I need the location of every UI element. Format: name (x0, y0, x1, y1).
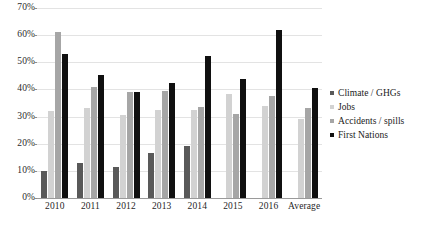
bar-group (215, 8, 251, 198)
x-axis-tick-label: 2015 (215, 201, 251, 212)
y-axis-tick-label: 30% (3, 112, 35, 122)
bar (77, 163, 83, 198)
bar (305, 108, 311, 198)
bar (134, 92, 140, 198)
x-axis-tick-label: 2010 (37, 201, 73, 212)
y-axis: 0%10%20%30%40%50%60%70% (0, 0, 35, 242)
bar (120, 115, 126, 198)
bar (262, 106, 268, 198)
bar (312, 88, 318, 198)
bar (205, 56, 211, 199)
y-axis-tick-label: 50% (3, 57, 35, 67)
bar-group (180, 8, 216, 198)
bar (162, 91, 168, 198)
legend-swatch-icon (330, 119, 334, 123)
legend-item[interactable]: Accidents / spills (330, 114, 420, 128)
bar (62, 54, 68, 198)
x-axis-tick-label: 2014 (180, 201, 216, 212)
x-axis-tick-label: 2011 (73, 201, 109, 212)
x-axis-tick-label: 2013 (144, 201, 180, 212)
bar (240, 79, 246, 198)
bar (91, 87, 97, 198)
bar (98, 75, 104, 199)
x-axis-tick-label: 2012 (108, 201, 144, 212)
legend-item-label: Jobs (338, 102, 355, 112)
bar-group (37, 8, 73, 198)
x-axis-tick-label: 2016 (251, 201, 287, 212)
bar (298, 119, 304, 198)
legend-swatch-icon (330, 133, 334, 137)
bar (269, 96, 275, 198)
bar (169, 83, 175, 198)
y-axis-tick-label: 10% (3, 166, 35, 176)
legend-item[interactable]: Climate / GHGs (330, 86, 420, 100)
bar (226, 94, 232, 199)
y-axis-tick-label: 40% (3, 84, 35, 94)
bar (191, 110, 197, 198)
legend-item-label: First Nations (338, 130, 388, 140)
bar (113, 167, 119, 198)
y-axis-tick-label: 20% (3, 139, 35, 149)
legend-item-label: Accidents / spills (338, 116, 404, 126)
chart-legend: Climate / GHGsJobsAccidents / spillsFirs… (330, 86, 420, 142)
y-axis-tick-label: 70% (3, 3, 35, 13)
bar (184, 146, 190, 198)
bar (55, 32, 61, 198)
bar (48, 111, 54, 198)
bar (233, 114, 239, 198)
legend-swatch-icon (330, 105, 334, 109)
legend-item-label: Climate / GHGs (338, 88, 400, 98)
bar (198, 107, 204, 198)
bar-group (286, 8, 322, 198)
bar (155, 110, 161, 198)
bar (127, 92, 133, 198)
bar-group (251, 8, 287, 198)
bar (41, 171, 47, 198)
bar (84, 108, 90, 198)
x-axis-tick-label: Average (286, 201, 322, 212)
y-axis-tick-label: 0% (3, 193, 35, 203)
legend-item[interactable]: Jobs (330, 100, 420, 114)
bar-group (144, 8, 180, 198)
bar-chart: 0%10%20%30%40%50%60%70% 2010201120122013… (0, 0, 421, 242)
legend-swatch-icon (330, 91, 334, 95)
y-axis-tick-label: 60% (3, 30, 35, 40)
bar-group (108, 8, 144, 198)
bar (148, 153, 154, 198)
legend-item[interactable]: First Nations (330, 128, 420, 142)
bar (276, 30, 282, 198)
bar-group (73, 8, 109, 198)
x-axis-line (37, 198, 322, 199)
